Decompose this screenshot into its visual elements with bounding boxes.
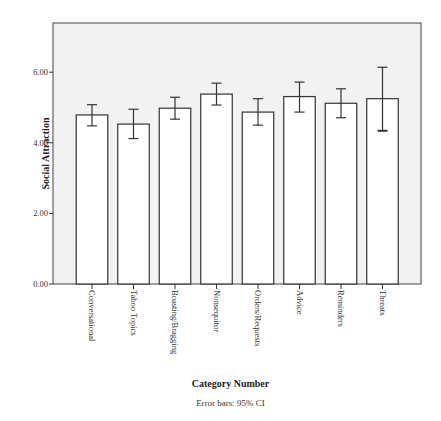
y-tick-label: 6.00 xyxy=(33,67,48,77)
bar-chart: 0.002.004.006.00 ConversationalTaboo Top… xyxy=(0,0,441,421)
y-tick-label: 2.00 xyxy=(33,208,48,218)
x-tick-label: Taboo Topics xyxy=(129,290,139,336)
bar-group xyxy=(325,89,357,284)
y-axis-title: Social Attraction xyxy=(40,99,51,209)
bar xyxy=(325,103,357,284)
bar xyxy=(159,108,191,284)
x-tick-label: Threats xyxy=(378,290,388,316)
y-tick-label: 0.00 xyxy=(33,279,48,289)
x-axis: ConversationalTaboo TopicsBoasting/Bragg… xyxy=(87,284,388,355)
bar xyxy=(76,115,108,284)
bar-group xyxy=(242,99,274,284)
x-tick-label: Advice xyxy=(295,290,305,315)
bar xyxy=(242,112,274,284)
x-tick-label: Reminders xyxy=(336,290,346,327)
bar-group xyxy=(284,82,316,284)
bar-group xyxy=(201,83,233,284)
error-bar-note: Error bars: 95% CI xyxy=(0,398,441,408)
bar xyxy=(284,97,316,284)
x-axis-title: Category Number xyxy=(0,378,441,389)
bar-group xyxy=(76,105,108,284)
bar-group xyxy=(159,97,191,284)
x-tick-label: Orders/Requests xyxy=(253,290,263,346)
x-tick-label: Boasting/Bragging xyxy=(170,290,180,355)
bar xyxy=(118,124,150,284)
bar xyxy=(201,94,233,284)
bar-group xyxy=(367,67,399,284)
bar-group xyxy=(118,109,150,284)
x-tick-label: Conversational xyxy=(87,290,97,342)
x-tick-label: Nonsequitur xyxy=(212,290,222,332)
